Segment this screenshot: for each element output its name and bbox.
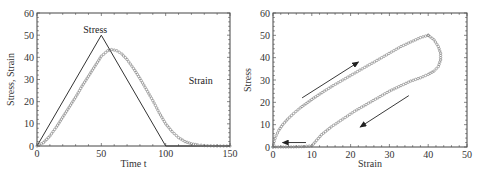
y-tick-label: 20 <box>24 96 34 107</box>
data-marker <box>342 118 344 120</box>
data-marker <box>410 41 412 43</box>
data-marker <box>383 55 385 57</box>
data-marker <box>378 58 380 60</box>
y-axis-label: Stress, Strain <box>5 53 16 106</box>
y-tick-label: 0 <box>29 141 34 152</box>
data-marker <box>391 89 393 91</box>
data-marker <box>393 50 395 52</box>
data-marker <box>150 97 152 99</box>
data-marker <box>412 40 414 42</box>
data-marker <box>349 75 351 77</box>
data-marker <box>104 51 106 53</box>
data-marker <box>385 54 387 56</box>
y-tick-label: 30 <box>260 75 270 86</box>
data-marker <box>417 77 419 79</box>
data-marker <box>419 36 421 38</box>
data-marker <box>347 76 349 78</box>
data-marker <box>427 73 429 75</box>
data-marker <box>388 90 390 92</box>
data-marker <box>354 72 356 74</box>
data-marker <box>157 109 159 111</box>
data-marker <box>373 61 375 63</box>
figure: 0501001500102030405060Time tStress, Stra… <box>0 0 481 172</box>
data-marker <box>407 42 409 44</box>
data-marker <box>335 123 337 125</box>
data-marker <box>353 110 355 112</box>
data-marker <box>351 112 353 114</box>
data-marker <box>393 88 395 90</box>
data-marker <box>419 77 421 79</box>
x-tick-label: 100 <box>158 148 173 159</box>
y-tick-label: 60 <box>260 8 270 19</box>
data-marker <box>380 57 382 59</box>
data-marker <box>334 83 336 85</box>
data-marker <box>339 80 341 82</box>
annotation-stress: Stress <box>83 24 107 35</box>
data-marker <box>374 98 376 100</box>
x-tick-label: 0 <box>35 148 40 159</box>
data-marker <box>395 48 397 50</box>
data-marker <box>152 99 154 101</box>
data-marker <box>276 132 278 134</box>
data-marker <box>337 82 339 84</box>
data-marker <box>370 101 372 103</box>
data-marker <box>424 74 426 76</box>
y-tick-label: 50 <box>260 30 270 41</box>
data-marker <box>384 93 386 95</box>
plot-frame <box>273 13 467 147</box>
y-tick-label: 10 <box>260 119 270 130</box>
data-marker <box>361 68 363 70</box>
data-marker <box>154 104 156 106</box>
data-marker <box>175 134 177 136</box>
data-marker <box>372 99 374 101</box>
data-marker <box>290 114 292 116</box>
series-loading-markers <box>272 34 430 148</box>
data-marker <box>359 69 361 71</box>
data-marker <box>129 63 131 65</box>
data-marker <box>113 49 115 51</box>
data-marker <box>287 118 289 120</box>
data-marker <box>400 45 402 47</box>
y-tick-label: 50 <box>24 30 34 41</box>
data-marker <box>344 116 346 118</box>
data-marker <box>358 107 360 109</box>
data-marker <box>410 80 412 82</box>
data-marker <box>100 55 102 57</box>
data-marker <box>54 128 56 130</box>
data-marker <box>346 115 348 117</box>
data-marker <box>344 77 346 79</box>
data-marker <box>414 39 416 41</box>
data-marker <box>332 84 334 86</box>
data-marker <box>342 79 344 81</box>
data-marker <box>128 61 130 63</box>
x-tick-label: 40 <box>423 149 433 160</box>
x-tick-label: 10 <box>307 149 317 160</box>
data-marker <box>379 95 381 97</box>
data-marker <box>356 70 358 72</box>
data-marker <box>381 94 383 96</box>
series-unloading-markers <box>272 34 442 148</box>
data-marker <box>131 65 133 67</box>
data-marker <box>332 124 334 126</box>
data-marker <box>337 121 339 123</box>
data-marker <box>339 119 341 121</box>
left-chart-panel: 0501001500102030405060Time tStress, Stra… <box>5 8 238 170</box>
data-marker <box>434 41 436 43</box>
data-marker <box>364 66 366 68</box>
right-chart-panel: 010203040500102030405060StrainStress <box>242 8 472 170</box>
data-marker <box>118 51 120 53</box>
y-tick-label: 60 <box>24 8 34 19</box>
data-marker <box>274 137 276 139</box>
data-marker <box>422 76 424 78</box>
data-marker <box>360 106 362 108</box>
data-marker <box>102 53 104 55</box>
data-marker <box>156 107 158 109</box>
series-stress-line <box>37 35 230 146</box>
data-marker <box>297 109 299 111</box>
y-tick-label: 0 <box>265 142 270 153</box>
data-marker <box>402 44 404 46</box>
data-marker <box>422 36 424 38</box>
data-marker <box>371 62 373 64</box>
y-tick-label: 40 <box>260 52 270 63</box>
data-marker <box>424 35 426 37</box>
